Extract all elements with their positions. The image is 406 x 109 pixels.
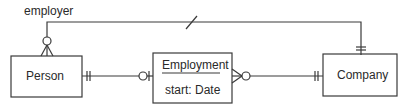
zero-circle-icon <box>43 37 51 45</box>
zero-circle-icon <box>139 72 147 80</box>
crowfoot-upper <box>232 69 242 76</box>
crowfoot-left <box>41 45 47 56</box>
company-label: Company <box>337 68 388 82</box>
employer-relationship-line <box>47 22 361 55</box>
employment-label: Employment <box>162 58 229 72</box>
crowfoot-lower <box>232 76 242 83</box>
crowfoot-right <box>47 45 53 56</box>
zero-circle-icon <box>242 72 250 80</box>
employer-label: employer <box>24 4 73 18</box>
person-label: Person <box>26 69 64 83</box>
employment-attribute: start: Date <box>165 83 220 97</box>
